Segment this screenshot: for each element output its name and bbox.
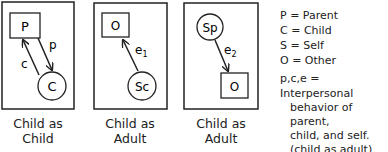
self-circle-label: Sp	[202, 21, 217, 35]
label-c: c	[21, 57, 28, 71]
caption-panel-3: Child as Adult	[181, 116, 261, 146]
panel-child-as-adult-2: Sp O e2	[184, 3, 258, 109]
legend-definition-cont: (child as adult)	[280, 143, 388, 152]
legend-parent: P = Parent	[280, 8, 388, 23]
caption-panel-2: Child as Adult	[90, 116, 170, 146]
legend-definition-cont: behavior of parent,	[280, 101, 388, 129]
label-e1: e1	[135, 43, 147, 59]
legend-self: S = Self	[280, 38, 388, 53]
label-p: p	[49, 38, 57, 52]
parent-box-label: P	[21, 19, 29, 34]
caption-line: Child as	[181, 116, 261, 131]
caption-line: Adult	[181, 131, 261, 146]
label-e2: e2	[224, 43, 236, 59]
legend-definition: p,c,e = Interpersonal	[280, 71, 388, 101]
legend-child: C = Child	[280, 23, 388, 38]
other-box-label: O	[230, 80, 239, 94]
legend-other: O = Other	[280, 53, 388, 68]
caption-line: Adult	[90, 131, 170, 146]
panel-child-as-adult-1: O Sc e1	[94, 3, 167, 109]
other-box-label: O	[111, 19, 120, 33]
self-circle-label: Sc	[135, 80, 149, 94]
legend-definition-cont: child, and self.	[280, 129, 388, 143]
panel-frame	[2, 2, 74, 109]
caption-panel-1: Child as Child	[0, 116, 78, 146]
panel-child-as-child: P C p c	[2, 2, 74, 109]
caption-line: Child as	[90, 116, 170, 131]
child-circle-label: C	[47, 79, 56, 94]
caption-line: Child as	[0, 116, 78, 131]
caption-line: Child	[0, 131, 78, 146]
legend: P = Parent C = Child S = Self O = Other …	[280, 8, 388, 152]
